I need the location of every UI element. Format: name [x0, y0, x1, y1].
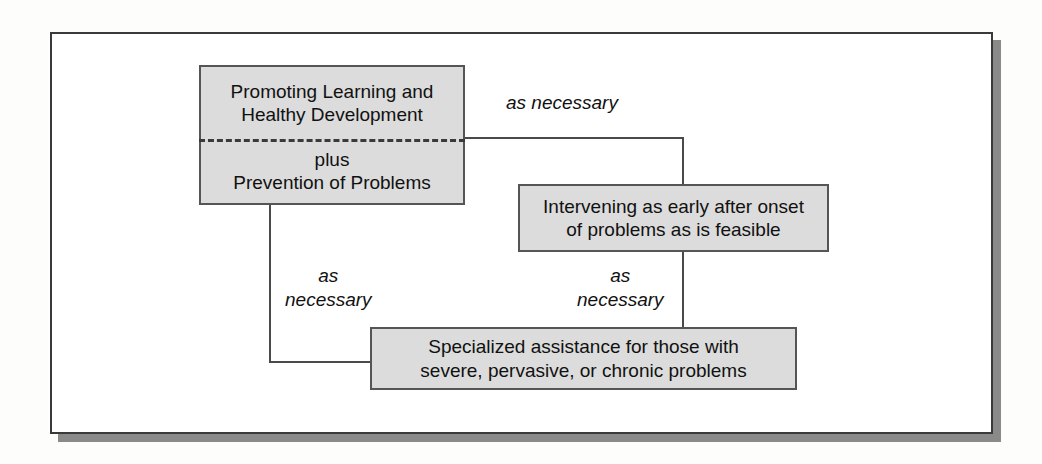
- node-line: Specialized assistance for those with: [428, 335, 739, 358]
- edge-label-as-necessary-left: as necessary: [285, 264, 372, 312]
- edge-label-line: as necessary: [506, 91, 618, 115]
- node-line: Prevention of Problems: [233, 171, 431, 194]
- node-promoting-learning-upper: Promoting Learning and Healthy Developme…: [201, 67, 463, 139]
- node-line: of problems as is feasible: [566, 218, 780, 241]
- node-promoting-learning[interactable]: Promoting Learning and Healthy Developme…: [199, 65, 465, 205]
- diagram-page: Promoting Learning and Healthy Developme…: [0, 0, 1042, 464]
- edge-label-as-necessary-middle: as necessary: [577, 264, 664, 312]
- connector-early-to-specialized-vertical: [682, 250, 684, 328]
- connector-top-to-specialized-horizontal: [269, 361, 370, 363]
- node-promoting-learning-lower: plus Prevention of Problems: [201, 139, 463, 203]
- node-line: Intervening as early after onset: [543, 195, 804, 218]
- node-intervening-early[interactable]: Intervening as early after onset of prob…: [518, 184, 829, 252]
- edge-label-line: necessary: [285, 288, 372, 312]
- node-specialized-assistance[interactable]: Specialized assistance for those with se…: [370, 327, 797, 390]
- node-line: plus: [315, 148, 350, 171]
- edge-label-as-necessary-top: as necessary: [506, 91, 618, 115]
- node-line: severe, pervasive, or chronic problems: [420, 359, 746, 382]
- node-dashed-divider: [199, 139, 465, 142]
- node-line: Promoting Learning and: [231, 80, 434, 103]
- connector-top-to-early-horizontal: [465, 137, 684, 139]
- diagram-frame: Promoting Learning and Healthy Developme…: [50, 32, 993, 434]
- edge-label-line: as: [577, 264, 664, 288]
- connector-top-to-specialized-vertical: [269, 205, 271, 362]
- edge-label-line: necessary: [577, 288, 664, 312]
- edge-label-line: as: [285, 264, 372, 288]
- node-line: Healthy Development: [241, 103, 423, 126]
- connector-early-vertical-upper: [682, 137, 684, 185]
